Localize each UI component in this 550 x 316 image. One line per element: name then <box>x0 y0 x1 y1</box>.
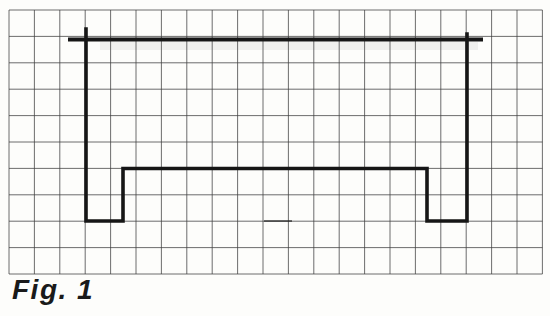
shape-outline <box>86 29 467 221</box>
graph-paper-figure <box>0 0 550 316</box>
ink-smudge <box>100 42 478 50</box>
scanned-figure-page: Fig. 1 <box>0 0 550 316</box>
figure-caption: Fig. 1 <box>12 275 94 306</box>
